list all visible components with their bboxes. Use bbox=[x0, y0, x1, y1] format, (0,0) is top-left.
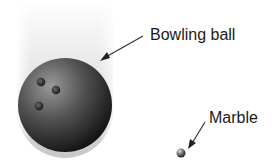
finger-hole bbox=[52, 86, 61, 95]
finger-hole bbox=[37, 78, 46, 87]
finger-hole bbox=[35, 102, 44, 111]
bowling-ball bbox=[18, 58, 112, 152]
marble-label: Marble bbox=[209, 110, 258, 126]
diagram-canvas: Bowling ball Marble bbox=[0, 0, 277, 161]
bowling-ball-label: Bowling ball bbox=[150, 27, 235, 43]
arrow-marble bbox=[188, 122, 205, 149]
diagram-graphic bbox=[0, 0, 277, 161]
marble bbox=[177, 149, 186, 158]
